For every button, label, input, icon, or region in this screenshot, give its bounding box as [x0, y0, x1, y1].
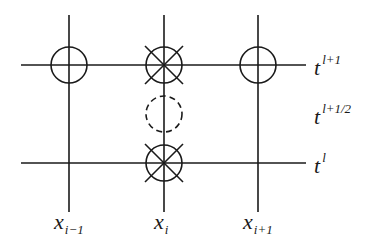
stencil-diagram: tl+1 tl+1/2 tl xi−1 xi xi+1 [0, 0, 375, 252]
label-t-l-plus-half: tl+1/2 [314, 101, 352, 129]
label-t-l: tl [314, 150, 326, 178]
label-t-l-plus-1: tl+1 [314, 52, 341, 80]
label-x-i-minus-1: xi−1 [53, 209, 84, 237]
label-x-i-plus-1: xi+1 [242, 209, 273, 237]
label-x-i: xi [153, 209, 169, 237]
